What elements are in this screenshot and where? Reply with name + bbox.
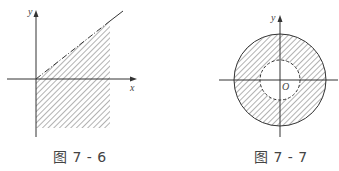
y-axis-label: y — [28, 6, 32, 17]
y-axis-arrow-icon — [278, 15, 283, 22]
figure-caption: 图 7 - 7 — [254, 146, 308, 166]
x-axis-arrow-icon — [130, 77, 137, 82]
figure-7-6: y x 图 7 - 6 — [0, 0, 170, 171]
figure-7-7: y O 图 7 - 7 — [170, 0, 339, 171]
y-axis-label: y — [271, 12, 275, 23]
x-axis-label: x — [130, 82, 134, 93]
figure-caption: 图 7 - 6 — [53, 146, 107, 166]
boundary-line-extension — [110, 11, 123, 21]
origin-label: O — [282, 81, 289, 92]
y-axis-arrow-icon — [34, 10, 39, 17]
shaded-region — [36, 21, 110, 128]
